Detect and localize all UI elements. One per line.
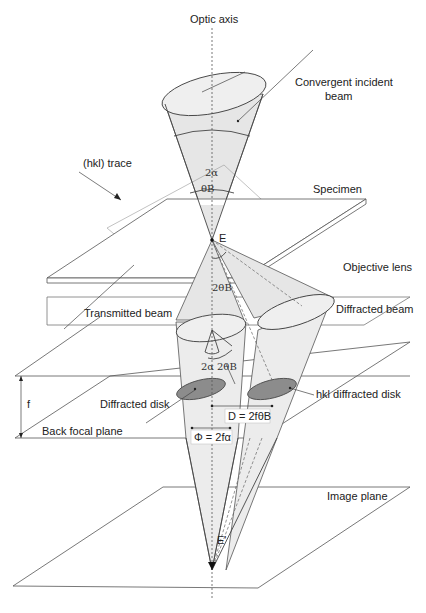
diagram-svg: Optic axis Convergent incident beam (hkl… — [0, 0, 426, 613]
incident-beam-label-1: Convergent incident — [295, 76, 393, 88]
two-alpha-top-label: 2α — [205, 167, 218, 178]
point-e-marker — [210, 238, 214, 242]
d-equation: D = 2fθB — [228, 410, 271, 422]
objective-lens-label: Objective lens — [343, 261, 413, 273]
point-e-label: E — [219, 232, 226, 244]
hkl-trace-label: (hkl) trace — [83, 157, 132, 169]
back-focal-plane-label: Back focal plane — [42, 425, 123, 437]
transmitted-beam-label: Transmitted beam — [84, 307, 172, 319]
two-theta-b-bottom-label: 2θB — [217, 361, 237, 372]
incident-beam-label-2: beam — [325, 90, 353, 102]
image-plane-label: Image plane — [327, 490, 388, 502]
hkl-diffracted-disk-label: hkl diffracted disk — [316, 388, 401, 400]
two-alpha-bottom-label: 2α — [201, 361, 214, 372]
hkl-trace-arrow — [79, 172, 121, 200]
point-e-prime-label: E' — [217, 534, 226, 546]
diffracted-disk-label: Diffracted disk — [100, 398, 170, 410]
specimen-label: Specimen — [313, 183, 362, 195]
optic-axis-label: Optic axis — [190, 13, 239, 25]
point-e-prime-marker — [208, 562, 216, 570]
two-theta-b-mid-label: 2θB — [212, 282, 232, 293]
front-plane-edge-left — [15, 317, 100, 376]
theta-b-top-label: θB — [201, 183, 214, 194]
diffracted-beam-label: Diffracted beam — [336, 303, 413, 315]
focal-length-label: f — [27, 398, 31, 410]
cbed-diagram: Optic axis Convergent incident beam (hkl… — [0, 0, 426, 613]
phi-equation: Φ = 2fα — [194, 431, 231, 443]
